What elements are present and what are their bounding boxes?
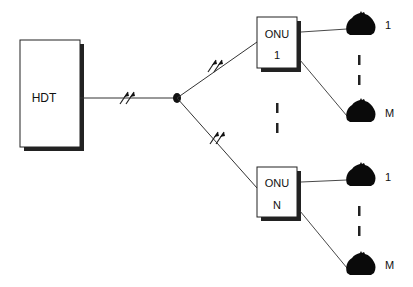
onu-1-index: 1 bbox=[274, 49, 280, 61]
onu-n-node: ONU N bbox=[257, 167, 301, 221]
onu-n-index: N bbox=[273, 199, 281, 211]
onu-n-phone-m-label: M bbox=[385, 259, 394, 271]
drop-onuN-phone1 bbox=[301, 180, 347, 182]
telephone-icon bbox=[346, 11, 375, 35]
telephone-icon bbox=[346, 98, 375, 122]
drop-onuN-phoneM bbox=[300, 211, 347, 268]
onu-ellipsis-marker bbox=[276, 103, 279, 133]
telephone-icon bbox=[346, 162, 375, 186]
drop-onu1-phone1 bbox=[301, 29, 347, 32]
onu-1-phone-ellipsis-marker bbox=[358, 55, 361, 85]
pon-diagram: HDT ONU 1 ONU N 1 M 1 M bbox=[0, 0, 413, 287]
hdt-label: HDT bbox=[32, 91, 57, 105]
onu-1-label: ONU bbox=[265, 28, 290, 40]
branch1-signal-icon bbox=[208, 60, 223, 72]
onu-1-phone-1-label: 1 bbox=[385, 19, 391, 31]
onu-n-phone-1-label: 1 bbox=[385, 171, 391, 183]
onu-1-node: ONU 1 bbox=[257, 17, 301, 72]
onu-n-phone-ellipsis-marker bbox=[358, 206, 361, 236]
onu-n-label: ONU bbox=[265, 177, 290, 189]
branch-fiber-onu1 bbox=[177, 42, 257, 98]
onu-1-phone-m-label: M bbox=[385, 107, 394, 119]
hdt-node: HDT bbox=[20, 40, 84, 151]
drop-onu1-phoneM bbox=[300, 60, 347, 116]
telephone-icon bbox=[346, 251, 375, 275]
